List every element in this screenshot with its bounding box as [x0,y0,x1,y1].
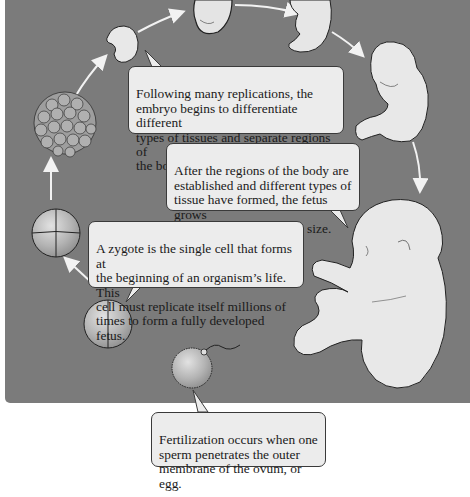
callout-zygote-text: A zygote is the single cell that forms a… [96,242,297,343]
callout-differentiation: Following many replications, the embryo … [128,66,344,134]
arrow-morula-to-early-embryo [75,57,105,97]
callout-fertilization: Fertilization occurs when one sperm pene… [151,412,326,467]
four-cell-stage-icon [32,209,80,257]
embryo-icon [194,0,232,34]
arrow-late-embryo-to-fetus [332,32,362,55]
arrow-embryo-to-late-embryo [235,5,297,13]
fetus-icon [356,42,429,142]
callout-zygote: A zygote is the single cell that forms a… [88,221,304,288]
morula-icon [34,92,96,157]
late-embryo-icon [289,0,332,52]
arrow-fetus-to-full-term [413,142,420,190]
early-embryo-icon [107,26,138,62]
callout-fertilization-text: Fertilization occurs when one sperm pene… [159,433,319,491]
arrow-early-embryo-to-embryo [138,12,182,32]
callout-growth: After the regions of the body are establ… [166,143,360,211]
tail-differentiation [145,50,162,67]
tail-fertilization [193,390,208,412]
